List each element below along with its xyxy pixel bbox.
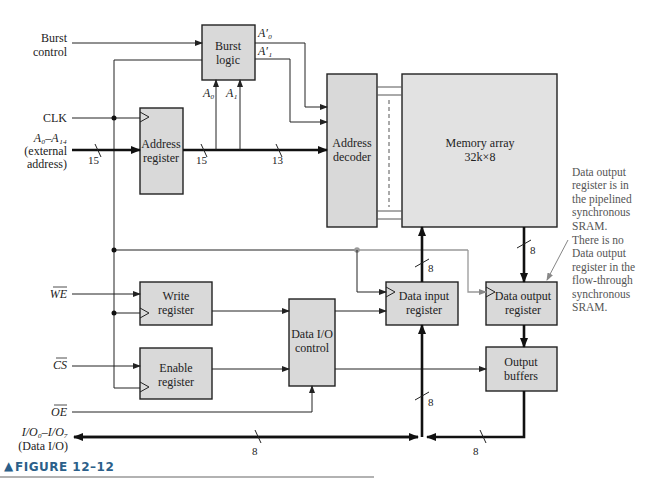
svg-text:There is no: There is no — [572, 234, 624, 246]
decoder-to-array-word-lines — [377, 87, 402, 219]
svg-text:15: 15 — [196, 154, 208, 166]
write-register-block: Write register — [140, 282, 212, 325]
svg-text:15: 15 — [88, 154, 100, 166]
svg-text:8: 8 — [428, 262, 434, 274]
svg-text:address): address) — [27, 157, 67, 171]
input-burst-control-label: Burst control — [33, 31, 68, 59]
svg-text:Address: Address — [141, 137, 181, 151]
clk-to-data-output-register-wire — [468, 250, 486, 292]
input-data-io-label: I/O₀–I/O₇ (Data I/O) — [18, 425, 68, 453]
svg-text:register: register — [158, 303, 194, 317]
input-clk-label: CLK — [43, 111, 67, 125]
a1-prime-wire — [255, 59, 327, 122]
a1-label: A₁ — [225, 86, 238, 100]
clk-junction-dot — [112, 248, 117, 253]
memory-array-block: Memory array 32k×8 — [402, 74, 557, 227]
caption-triangle-icon: ▲ — [4, 459, 14, 473]
address-register-block: Address register — [140, 108, 183, 194]
svg-text:Address: Address — [332, 136, 372, 150]
svg-text:8: 8 — [252, 445, 258, 457]
svg-text:control: control — [295, 341, 330, 355]
clk-to-data-input-register-wire — [357, 250, 386, 292]
svg-text:logic: logic — [216, 53, 240, 67]
svg-text:I/O₀–I/O₇: I/O₀–I/O₇ — [21, 425, 68, 439]
svg-text:(Data I/O): (Data I/O) — [18, 439, 68, 453]
input-address-label: A₀–A₁₄ (external address) — [24, 131, 67, 171]
svg-text:register is in: register is in — [572, 179, 629, 192]
data-output-register-block: Data output register — [486, 282, 557, 325]
input-we-label: WE — [50, 287, 68, 301]
svg-text:OE: OE — [51, 405, 68, 419]
annotation-pointer-arrow — [547, 240, 568, 280]
address-decoder-block: Address decoder — [327, 74, 377, 227]
output-buffers-block: Output buffers — [486, 347, 557, 391]
svg-text:Data output: Data output — [572, 247, 627, 260]
clk-junction-dot — [112, 116, 117, 121]
svg-text:Burst: Burst — [41, 31, 68, 45]
pipelined-vs-flowthrough-annotation: Data output register is in the pipelined… — [547, 166, 635, 313]
svg-text:decoder: decoder — [333, 150, 371, 164]
clk-vertical-wire — [114, 60, 140, 388]
svg-text:buffers: buffers — [504, 369, 538, 383]
svg-text:8: 8 — [428, 396, 434, 408]
svg-text:8: 8 — [473, 445, 479, 457]
input-cs-label: CS — [53, 358, 67, 372]
svg-text:WE: WE — [50, 287, 68, 301]
svg-text:Burst: Burst — [215, 39, 242, 53]
data-io-control-block: Data I/O control — [289, 299, 335, 386]
svg-text:Output: Output — [504, 355, 538, 369]
svg-text:Data I/O: Data I/O — [291, 327, 333, 341]
svg-text:Write: Write — [163, 289, 190, 303]
svg-text:register: register — [505, 303, 541, 317]
svg-text:SRAM.: SRAM. — [572, 301, 608, 313]
svg-text:A₀–A₁₄: A₀–A₁₄ — [33, 131, 67, 145]
clk-junction-dot — [112, 311, 117, 316]
svg-text:register: register — [158, 375, 194, 389]
svg-text:Enable: Enable — [159, 361, 192, 375]
svg-text:13: 13 — [272, 154, 284, 166]
svg-text:CS: CS — [53, 358, 67, 372]
enable-register-block: Enable register — [140, 348, 212, 399]
svg-text:register: register — [143, 151, 179, 165]
sram-block-diagram: Burst control CLK A₀–A₁₄ (external addre… — [0, 0, 650, 485]
input-oe-label: OE — [51, 405, 68, 419]
svg-text:(external: (external — [24, 144, 67, 158]
svg-text:Data output: Data output — [495, 289, 552, 303]
svg-text:the pipelined: the pipelined — [572, 193, 632, 206]
output-buffers-to-data-io-bus — [427, 391, 524, 437]
svg-text:synchronous: synchronous — [572, 206, 631, 219]
svg-text:Data input: Data input — [399, 289, 450, 303]
burst-logic-block: Burst logic — [202, 25, 255, 80]
svg-text:flow-through: flow-through — [572, 274, 633, 287]
data-input-register-block: Data input register — [386, 282, 458, 325]
svg-text:register: register — [406, 303, 442, 317]
svg-text:SRAM.: SRAM. — [572, 220, 608, 232]
svg-text:32k×8: 32k×8 — [465, 150, 496, 164]
figure-caption: ▲ FIGURE 12–12 — [0, 459, 374, 477]
a0-prime-label: A′₀ — [257, 26, 272, 40]
svg-text:synchronous: synchronous — [572, 288, 631, 301]
svg-text:8: 8 — [530, 244, 536, 256]
svg-text:Memory array: Memory array — [446, 136, 515, 150]
svg-text:register in the: register in the — [572, 261, 635, 274]
a1-prime-label: A′₁ — [257, 44, 272, 58]
svg-text:Data output: Data output — [572, 166, 627, 179]
a0-label: A₀ — [202, 86, 215, 100]
caption-text: FIGURE 12–12 — [15, 460, 114, 474]
svg-text:control: control — [33, 45, 68, 59]
